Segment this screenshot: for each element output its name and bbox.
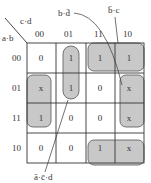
annotation-bd: b·d̄ — [58, 8, 70, 18]
row-header: 00 — [12, 53, 22, 63]
group-bottom-right — [88, 140, 144, 165]
cell: 1 — [69, 53, 74, 63]
row-header: 11 — [12, 113, 21, 123]
group-top-right — [88, 43, 144, 71]
cell: x — [39, 83, 44, 93]
col-header: 00 — [35, 29, 45, 39]
annotation-acd: ā·c̄·d — [34, 172, 53, 182]
cell: 0 — [98, 113, 103, 123]
annotation-bc: b̄·c — [108, 5, 120, 15]
col-header: 11 — [94, 29, 103, 39]
cell: x — [127, 143, 132, 153]
arrow-bc — [115, 17, 118, 43]
karnaugh-map: c·d a·b 00 01 11 10 00 01 11 10 0 1 1 1 … — [0, 0, 151, 183]
cell: 1 — [98, 143, 103, 153]
col-header: 01 — [64, 29, 73, 39]
row-header: 01 — [12, 83, 21, 93]
row-header: 10 — [12, 143, 22, 153]
cell: x — [127, 113, 132, 123]
cell: x — [127, 83, 132, 93]
col-header: 10 — [123, 29, 133, 39]
cell: 1 — [127, 53, 132, 63]
cell: 0 — [69, 143, 74, 153]
cell: 1 — [69, 83, 74, 93]
row-var-label: a·b — [2, 33, 14, 43]
col-var-label: c·d — [20, 16, 32, 26]
cell: 1 — [98, 53, 103, 63]
cell: 0 — [39, 53, 44, 63]
cell: 1 — [39, 113, 44, 123]
cell: 0 — [69, 113, 74, 123]
group-right-wrap — [120, 75, 144, 127]
cell: 0 — [98, 83, 103, 93]
cell: 0 — [39, 143, 44, 153]
